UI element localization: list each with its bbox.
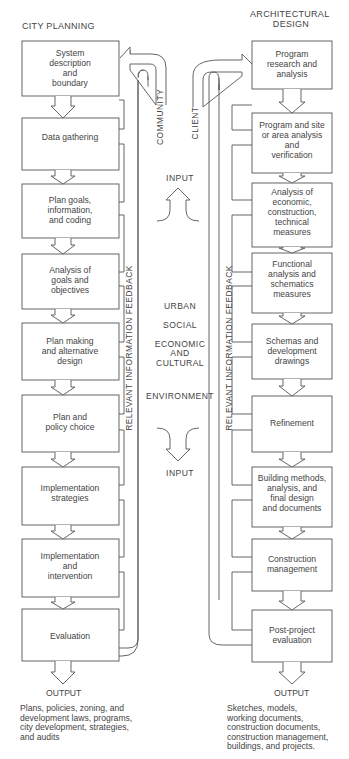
- left-box-4-text: Analysis ofgoals andobjectives: [49, 265, 91, 295]
- client-arrow-right: [193, 54, 252, 107]
- svg-text:Analysis ofeconomic,constructi: Analysis ofeconomic,construction,technic…: [268, 187, 317, 237]
- left-box-3-text: Plan goals,information,and coding: [48, 195, 93, 225]
- architectural-design-title: ARCHITECTURAL DESIGN: [250, 9, 332, 29]
- svg-text:URBAN: URBAN: [164, 301, 196, 311]
- left-output-label: OUTPUT: [46, 688, 82, 698]
- right-feedback-bottom-curve: [209, 634, 252, 645]
- left-box-2-text: Data gathering: [42, 132, 99, 142]
- svg-text:AND: AND: [170, 348, 189, 358]
- planning-design-diagram: CITY PLANNING COMMUNITY RELEVANT INFORMA…: [0, 0, 349, 759]
- svg-text:Post-projectevaluation: Post-projectevaluation: [269, 625, 315, 645]
- svg-text:Refinement: Refinement: [270, 418, 315, 428]
- right-feedback-label: RELEVANT INFORMATION FEEDBACK: [224, 265, 234, 431]
- left-output-text: Plans, policies, zoning, and development…: [20, 703, 135, 742]
- left-box-9-text: Evaluation: [50, 631, 90, 641]
- svg-text:ENVIRONMENT: ENVIRONMENT: [146, 391, 214, 401]
- left-box-labels: Systemdescriptionandboundary Data gather…: [41, 48, 100, 641]
- right-box-labels: Programresearch andanalysis Program and …: [258, 49, 326, 645]
- environment-labels: URBAN SOCIAL ECONOMIC AND CULTURAL ENVIR…: [146, 301, 214, 401]
- right-output-label: OUTPUT: [274, 688, 310, 698]
- right-down-arrows: [279, 89, 305, 684]
- input-bottom-label: INPUT: [166, 468, 194, 478]
- right-output-arrow: [279, 662, 305, 684]
- svg-text:CULTURAL: CULTURAL: [156, 358, 204, 368]
- right-feedback-tabs: [232, 105, 252, 630]
- city-planning-title: CITY PLANNING: [22, 21, 95, 31]
- left-box-2: [22, 118, 119, 170]
- client-label: CLIENT: [190, 107, 200, 140]
- input-down-arrow: [157, 428, 199, 461]
- input-up-arrow: [157, 188, 199, 221]
- svg-text:Constructionmanagement: Constructionmanagement: [267, 554, 318, 574]
- svg-text:Functionalanalysis andschemati: Functionalanalysis andschematicsmeasures: [268, 259, 316, 299]
- right-feedback-top-curve: [209, 72, 219, 90]
- left-output-arrow: [51, 661, 75, 684]
- svg-text:SOCIAL: SOCIAL: [163, 320, 197, 330]
- community-label: COMMUNITY: [155, 89, 165, 145]
- input-top-label: INPUT: [166, 173, 194, 183]
- right-output-text: Sketches, models, working documents, con…: [226, 703, 331, 751]
- left-feedback-label: RELEVANT INFORMATION FEEDBACK: [124, 265, 134, 431]
